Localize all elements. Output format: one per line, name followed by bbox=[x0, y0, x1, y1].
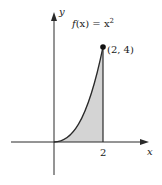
y-axis-arrow-icon bbox=[51, 12, 57, 21]
x-axis-label: x bbox=[147, 146, 153, 157]
function-label: f(x) = x2 bbox=[71, 17, 114, 29]
x-tick-label: 2 bbox=[100, 147, 106, 158]
shaded-area bbox=[54, 47, 103, 142]
point-label: (2, 4) bbox=[107, 44, 134, 55]
y-axis-label: y bbox=[58, 6, 65, 17]
function-exponent: 2 bbox=[110, 17, 114, 25]
x-axis-arrow-icon bbox=[140, 139, 149, 145]
function-area-diagram: y f(x) = x2 (2, 4) 2 x bbox=[0, 0, 162, 185]
function-label-rest: (x) = x bbox=[76, 18, 110, 29]
point-marker bbox=[100, 44, 106, 50]
